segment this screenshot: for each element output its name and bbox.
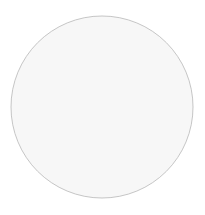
quilt-diagram — [0, 0, 205, 215]
quilt-svg — [0, 0, 205, 215]
